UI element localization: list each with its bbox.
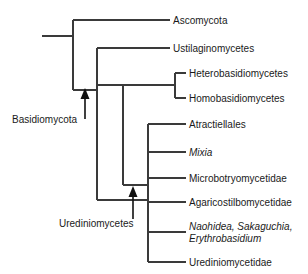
annotation-arrows — [81, 88, 138, 219]
tip-label-agaricostilbomycetidae: Agaricostilbomycetidae — [189, 197, 292, 208]
tip-label-naohidea-group-line2: Erythrobasidium — [189, 233, 261, 244]
tip-label-microbotryomycetidae: Microbotryomycetidae — [189, 173, 287, 184]
tip-label-ustilaginomycetes: Ustilaginomycetes — [173, 43, 254, 54]
tip-label-atractiellales: Atractiellales — [189, 119, 246, 130]
tip-label-urediniomycetidae: Urediniomycetidae — [189, 257, 272, 268]
tip-label-heterobasidiomycetes: Heterobasidiomycetes — [189, 68, 288, 79]
tip-label-mixia: Mixia — [189, 147, 212, 158]
tip-label-naohidea-group-line1: Naohidea, Sakaguchia, — [189, 221, 292, 232]
tip-label-ascomycota: Ascomycota — [173, 15, 227, 26]
tip-label-homobasidiomycetes: Homobasidiomycetes — [189, 93, 285, 104]
urediniomycetes-arrow-head — [129, 186, 138, 197]
phylogenetic-tree-figure: Ascomycota Ustilaginomycetes Heterobasid… — [0, 0, 308, 274]
clade-label-basidiomycota: Basidiomycota — [12, 114, 77, 125]
clade-label-urediniomycetes: Urediniomycetes — [59, 218, 133, 229]
tree-branches-svg — [0, 0, 308, 274]
